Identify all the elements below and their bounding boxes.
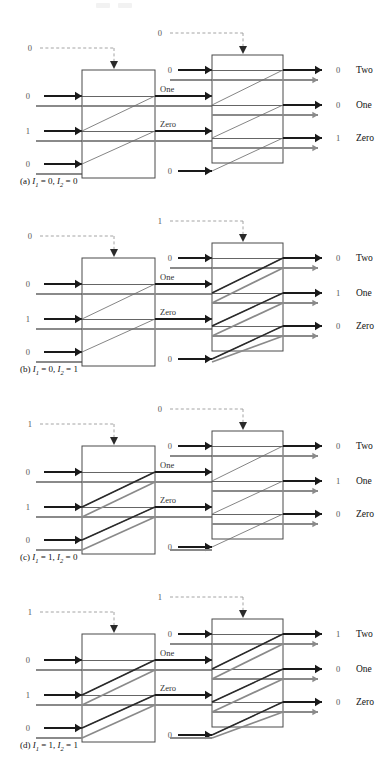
right-control-value-a: 0 <box>158 28 162 38</box>
middle-label-zero-b: Zero <box>160 307 176 317</box>
mid-input-0-b: 0 <box>168 253 172 263</box>
output-value-2-c: 0 <box>336 509 340 519</box>
output-label-two-a: Two <box>356 65 373 75</box>
left-input-0-c: 0 <box>26 467 30 477</box>
middle-label-one-c: One <box>160 460 174 470</box>
output-value-2-a: 1 <box>336 133 340 143</box>
caption-i1: I1 <box>32 176 38 186</box>
output-label-zero-a: Zero <box>356 133 374 143</box>
left-input-1-b: 1 <box>26 314 30 324</box>
left-input-0-b: 0 <box>26 279 30 289</box>
panel-c: 10010OneZero000Two1One0Zero(c) I1 = 1, I… <box>0 384 390 569</box>
output-value-0-d: 1 <box>336 629 340 639</box>
output-label-zero-d: Zero <box>356 697 374 707</box>
mid-input-0-a: 0 <box>168 65 172 75</box>
output-label-zero-c: Zero <box>356 509 374 519</box>
output-value-1-a: 0 <box>336 100 340 110</box>
output-label-one-d: One <box>356 664 372 674</box>
left-input-2-a: 0 <box>26 159 30 169</box>
output-label-one-b: One <box>356 288 372 298</box>
left-control-value-c: 1 <box>28 419 32 429</box>
panel-caption-d: (d) I1 = 1, I2 = 1 <box>20 740 78 752</box>
middle-label-one-a: One <box>160 84 174 94</box>
panel-caption-b: (b) I1 = 0, I2 = 1 <box>20 364 78 376</box>
middle-label-one-b: One <box>160 272 174 282</box>
left-control-value-b: 0 <box>28 231 32 241</box>
middle-label-zero-a: Zero <box>160 119 176 129</box>
output-value-1-d: 0 <box>336 664 340 674</box>
caption-i1-value: = 1, <box>41 740 55 750</box>
caption-i2: I2 <box>57 176 63 186</box>
left-input-2-c: 0 <box>26 535 30 545</box>
caption-i1-value: = 0, <box>41 364 55 374</box>
panel-b: 01010OneZero000Two1One0Zero(b) I1 = 0, I… <box>0 196 390 381</box>
right-control-value-d: 1 <box>158 592 162 602</box>
left-input-0-d: 0 <box>26 655 30 665</box>
caption-i1-value: = 1, <box>41 552 55 562</box>
output-value-0-a: 0 <box>336 65 340 75</box>
right-control-value-b: 1 <box>158 216 162 226</box>
output-label-one-a: One <box>356 100 372 110</box>
caption-i1: I1 <box>32 552 38 562</box>
left-input-2-d: 0 <box>26 723 30 733</box>
panel-a: 00010OneZero000Two0One1Zero(a) I1 = 0, I… <box>0 8 390 193</box>
output-label-zero-b: Zero <box>356 321 374 331</box>
output-label-two-c: Two <box>356 441 373 451</box>
mid-input-0-c: 0 <box>168 441 172 451</box>
caption-i1: I1 <box>33 740 39 750</box>
caption-i2-value: = 1 <box>66 364 78 374</box>
caption-i1: I1 <box>33 364 39 374</box>
output-label-one-c: One <box>356 476 372 486</box>
output-value-0-b: 0 <box>336 253 340 263</box>
figure-root: 00010OneZero000Two0One1Zero(a) I1 = 0, I… <box>0 0 390 770</box>
caption-prefix: (c) <box>20 552 30 562</box>
left-control-value-a: 0 <box>28 43 32 53</box>
output-value-2-d: 0 <box>336 697 340 707</box>
caption-i2: I2 <box>58 364 64 374</box>
middle-label-one-d: One <box>160 648 174 658</box>
caption-prefix: (a) <box>20 176 30 186</box>
left-control-value-d: 1 <box>28 607 32 617</box>
right-control-value-c: 0 <box>158 404 162 414</box>
output-value-1-b: 1 <box>336 288 340 298</box>
mid-input-1-a: 0 <box>168 166 172 176</box>
left-input-2-b: 0 <box>26 347 30 357</box>
caption-prefix: (b) <box>20 364 31 374</box>
output-label-two-b: Two <box>356 253 373 263</box>
mid-input-0-d: 0 <box>168 629 172 639</box>
panel-d: 11010OneZero001Two0One0Zero(d) I1 = 1, I… <box>0 572 390 757</box>
panel-caption-a: (a) I1 = 0, I2 = 0 <box>20 176 77 188</box>
caption-i2-value: = 0 <box>66 552 78 562</box>
panel-caption-c: (c) I1 = 1, I2 = 0 <box>20 552 77 564</box>
output-value-2-b: 0 <box>336 321 340 331</box>
output-value-0-c: 0 <box>336 441 340 451</box>
left-input-1-c: 1 <box>26 502 30 512</box>
middle-label-zero-d: Zero <box>160 683 176 693</box>
output-value-1-c: 1 <box>336 476 340 486</box>
left-input-1-d: 1 <box>26 690 30 700</box>
cropped-top-artifact <box>96 0 156 4</box>
left-input-0-a: 0 <box>26 91 30 101</box>
caption-i2-value: = 0 <box>66 176 78 186</box>
caption-i2: I2 <box>57 552 63 562</box>
caption-i1-value: = 0, <box>41 176 55 186</box>
mid-input-1-b: 0 <box>168 354 172 364</box>
caption-i2: I2 <box>58 740 64 750</box>
output-label-two-d: Two <box>356 629 373 639</box>
caption-prefix: (d) <box>20 740 31 750</box>
caption-i2-value: = 1 <box>66 740 78 750</box>
middle-label-zero-c: Zero <box>160 495 176 505</box>
left-input-1-a: 1 <box>26 126 30 136</box>
